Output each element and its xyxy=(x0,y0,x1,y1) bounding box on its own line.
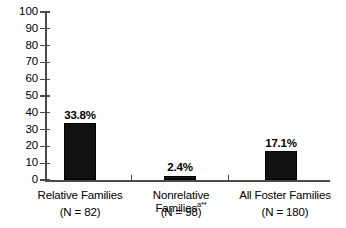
y-tick-label-40: 40 xyxy=(4,107,38,119)
y-tick-80 xyxy=(40,45,50,46)
category-label-relative-families: Relative Families xyxy=(34,189,126,202)
y-tick-label-0: 0 xyxy=(4,174,38,186)
bar-relative-families xyxy=(64,123,96,180)
bar-value-all-foster-families: 17.1% xyxy=(247,138,315,150)
x-tick-separator-1 xyxy=(131,175,132,181)
y-tick-70 xyxy=(40,62,50,63)
y-tick-label-100: 100 xyxy=(4,6,38,18)
y-tick-30 xyxy=(40,129,50,130)
y-tick-label-80: 80 xyxy=(4,40,38,52)
y-tick-label-20: 20 xyxy=(4,140,38,152)
y-tick-label-90: 90 xyxy=(4,23,38,35)
y-tick-90 xyxy=(40,28,50,29)
bar-all-foster-families xyxy=(265,151,297,180)
x-tick-separator-2 xyxy=(228,175,229,181)
y-tick-0 xyxy=(40,179,50,180)
y-tick-50 xyxy=(40,95,50,96)
sample-size-relative-families: (N = 82) xyxy=(34,206,126,219)
bar-value-nonrelative-families: 2.4% xyxy=(146,162,214,174)
bar-nonrelative-families xyxy=(164,176,196,180)
y-tick-100 xyxy=(40,11,50,12)
x-axis-line xyxy=(45,180,330,182)
bar-chart: 100 90 80 70 60 50 40 30 20 10 0 33.8% 2… xyxy=(0,0,346,228)
y-tick-10 xyxy=(40,163,50,164)
y-tick-label-60: 60 xyxy=(4,73,38,85)
y-tick-label-70: 70 xyxy=(4,56,38,68)
bar-value-relative-families: 33.8% xyxy=(46,110,114,122)
sample-size-nonrelative-families: (N = 98) xyxy=(128,206,234,219)
y-tick-20 xyxy=(40,146,50,147)
y-tick-label-50: 50 xyxy=(4,90,38,102)
y-tick-60 xyxy=(40,79,50,80)
y-tick-label-30: 30 xyxy=(4,124,38,136)
sample-size-all-foster-families: (N = 180) xyxy=(235,206,335,219)
y-tick-label-10: 10 xyxy=(4,157,38,169)
category-label-all-foster-families: All Foster Families xyxy=(235,189,335,202)
